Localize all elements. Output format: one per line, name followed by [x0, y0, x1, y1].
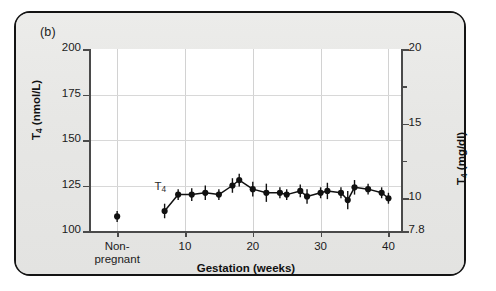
- x-tick: [185, 231, 187, 237]
- y-axis-right-title: T4 (mg/dl): [455, 132, 467, 185]
- y-tick-label-left: 150: [41, 132, 81, 144]
- y-axis-right: 7.8101520: [401, 49, 403, 232]
- x-tick: [388, 231, 390, 237]
- y-tick-left: [83, 95, 89, 97]
- y-tick-label-right: 20: [409, 41, 449, 53]
- y-tick-right-minor: [403, 86, 408, 88]
- figure-panel-b: (b) 100125150175200 7.8101520 10203040No…: [0, 0, 496, 291]
- y-axis-left: 100125150175200: [89, 49, 91, 232]
- x-axis: 10203040Non-pregnant: [89, 231, 403, 233]
- y-tick-label-left: 125: [41, 178, 81, 190]
- y-tick-label-left: 175: [41, 87, 81, 99]
- x-axis-title: Gestation (weeks): [90, 262, 402, 274]
- y-tick-right-minor: [403, 161, 408, 163]
- plot-area: [90, 49, 402, 231]
- y-tick-label-left: 100: [41, 223, 81, 235]
- x-category-label-line1: Non-: [77, 240, 157, 253]
- y-tick-label-right: 7.8: [409, 223, 449, 235]
- y-tick-label-right: 10: [409, 190, 449, 202]
- x-tick: [253, 231, 255, 237]
- y-axis-left-title: T4 (nmol/L): [30, 80, 42, 140]
- y-gridline: [90, 95, 402, 96]
- y-gridline: [90, 186, 402, 187]
- series-annotation-t4: T4: [154, 180, 166, 192]
- y-tick-left: [83, 140, 89, 142]
- y-tick-left: [83, 49, 89, 51]
- x-tick: [321, 231, 323, 237]
- y-tick-label-right: 15: [409, 116, 449, 128]
- y-tick-left: [83, 186, 89, 188]
- x-tick-label: 40: [348, 240, 428, 253]
- y-tick-label-left: 200: [41, 41, 81, 53]
- x-tick-category: [117, 231, 119, 237]
- panel-label: (b): [40, 25, 56, 39]
- y-gridline: [90, 140, 402, 141]
